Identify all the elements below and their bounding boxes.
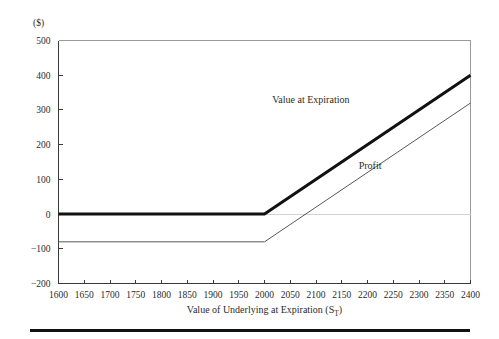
x-tick-label: 1900 (204, 290, 223, 300)
y-tick-label: 500 (36, 36, 51, 46)
x-tick-label: 1800 (152, 290, 171, 300)
x-tick-label: 2350 (435, 290, 454, 300)
x-tick-label: 2000 (255, 290, 274, 300)
x-tick-label: 2250 (384, 290, 403, 300)
x-axis-title-main: Value of Underlying at Expiration (S (187, 304, 334, 316)
chart-figure: ($)5004003002001000−100−2001600165017001… (0, 0, 499, 339)
y-tick-label: −200 (31, 279, 51, 289)
payoff-diagram: ($)5004003002001000−100−2001600165017001… (0, 0, 499, 339)
x-tick-label: 1850 (178, 290, 197, 300)
x-tick-label: 2200 (358, 290, 377, 300)
x-tick-label: 2150 (332, 290, 351, 300)
x-tick-label: 1950 (229, 290, 248, 300)
x-tick-label: 1650 (75, 290, 94, 300)
x-axis-title: Value of Underlying at Expiration (ST) (187, 304, 342, 318)
axis-lines (59, 41, 471, 284)
y-tick-label: −100 (31, 244, 51, 254)
series-label-value-at-expiration: Value at Expiration (272, 94, 349, 105)
y-tick-label: 0 (46, 210, 51, 220)
x-tick-label: 1600 (49, 290, 68, 300)
footer-rule (30, 329, 470, 332)
series-label-profit: Profit (359, 160, 382, 171)
x-axis-title-tail: ) (339, 304, 342, 316)
x-tick-label: 1750 (126, 290, 145, 300)
y-tick-label: 400 (36, 71, 51, 81)
y-tick-label: 100 (36, 175, 51, 185)
series-line-profit (59, 103, 471, 242)
x-tick-label: 2300 (410, 290, 429, 300)
y-axis-unit-label: ($) (33, 18, 44, 29)
x-tick-label: 2400 (461, 290, 480, 300)
x-tick-label: 2100 (307, 290, 326, 300)
x-tick-label: 2050 (281, 290, 300, 300)
x-tick-label: 1700 (101, 290, 120, 300)
y-tick-label: 200 (36, 140, 51, 150)
y-tick-label: 300 (36, 105, 51, 115)
plot-frame (59, 41, 471, 284)
